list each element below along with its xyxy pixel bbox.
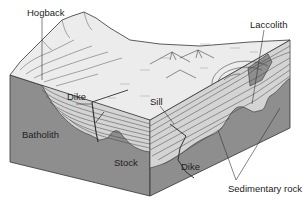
label-hogback: Hogback [27, 8, 65, 18]
label-dike-upper: Dike [67, 92, 86, 102]
label-dike-lower: Dike [181, 162, 200, 172]
label-stock: Stock [114, 158, 138, 168]
label-sill: Sill [150, 97, 163, 107]
label-sedimentary-rock: Sedimentary rock [228, 184, 302, 194]
label-laccolith: Laccolith [250, 20, 288, 30]
label-batholith: Batholith [22, 130, 59, 140]
igneous-intrusions-diagram: Hogback Laccolith Dike Sill Batholith St… [0, 0, 306, 213]
